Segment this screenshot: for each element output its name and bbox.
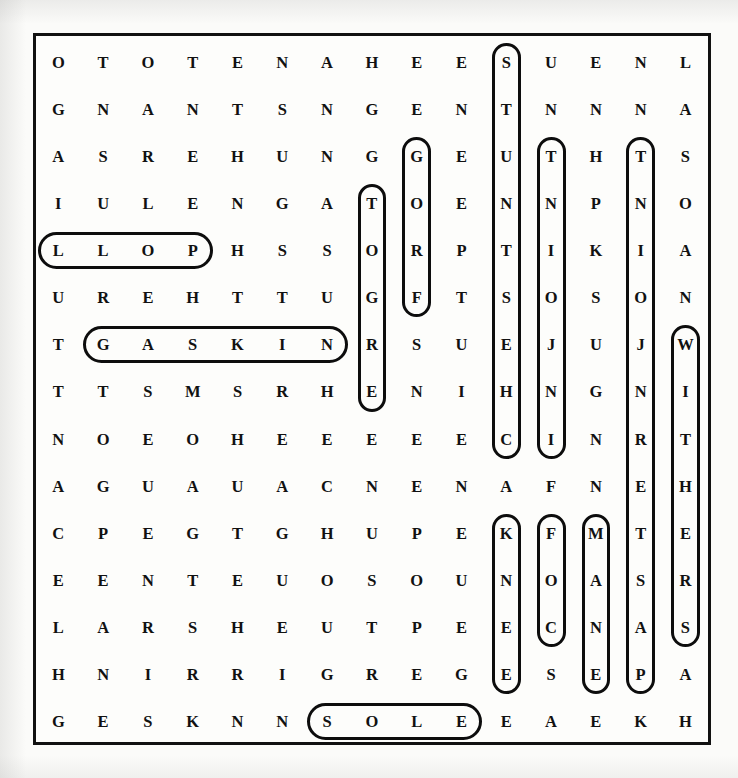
grid-letter[interactable]: N xyxy=(618,39,663,86)
grid-letter[interactable]: L xyxy=(663,39,708,86)
grid-letter[interactable]: H xyxy=(215,416,260,463)
grid-letter[interactable]: E xyxy=(439,604,484,651)
grid-letter[interactable]: N xyxy=(260,39,305,86)
grid-letter[interactable]: U xyxy=(439,321,484,368)
grid-letter[interactable]: W xyxy=(663,321,708,368)
grid-letter[interactable]: S xyxy=(350,557,395,604)
grid-letter[interactable]: C xyxy=(484,416,529,463)
grid-letter[interactable]: U xyxy=(215,463,260,510)
grid-letter[interactable]: E xyxy=(394,463,439,510)
grid-letter[interactable]: N xyxy=(81,86,126,133)
grid-letter[interactable]: A xyxy=(170,463,215,510)
grid-letter[interactable]: G xyxy=(394,133,439,180)
grid-letter[interactable]: O xyxy=(663,180,708,227)
grid-letter[interactable]: A xyxy=(126,321,171,368)
grid-letter[interactable]: T xyxy=(529,133,574,180)
grid-letter[interactable]: N xyxy=(394,368,439,415)
grid-letter[interactable]: U xyxy=(305,604,350,651)
grid-letter[interactable]: U xyxy=(484,133,529,180)
grid-letter[interactable]: E xyxy=(215,39,260,86)
grid-letter[interactable]: E xyxy=(439,698,484,745)
grid-letter[interactable]: G xyxy=(260,180,305,227)
grid-letter[interactable]: E xyxy=(36,557,81,604)
grid-letter[interactable]: E xyxy=(81,557,126,604)
grid-letter[interactable]: A xyxy=(574,557,619,604)
grid-letter[interactable]: L xyxy=(394,698,439,745)
grid-letter[interactable]: S xyxy=(394,321,439,368)
grid-letter[interactable]: P xyxy=(394,604,439,651)
grid-letter[interactable]: O xyxy=(618,274,663,321)
grid-letter[interactable]: E xyxy=(305,416,350,463)
grid-letter[interactable]: E xyxy=(439,180,484,227)
grid-letter[interactable]: S xyxy=(170,604,215,651)
grid-letter[interactable]: T xyxy=(350,180,395,227)
grid-letter[interactable]: T xyxy=(618,510,663,557)
grid-letter[interactable]: E xyxy=(81,698,126,745)
grid-letter[interactable]: N xyxy=(574,463,619,510)
grid-letter[interactable]: L xyxy=(36,604,81,651)
grid-letter[interactable]: T xyxy=(215,274,260,321)
grid-letter[interactable]: E xyxy=(484,604,529,651)
grid-letter[interactable]: O xyxy=(81,416,126,463)
grid-letter[interactable]: N xyxy=(618,180,663,227)
grid-letter[interactable]: T xyxy=(36,321,81,368)
grid-letter[interactable]: E xyxy=(126,274,171,321)
grid-letter[interactable]: K xyxy=(618,698,663,745)
grid-letter[interactable]: E xyxy=(350,416,395,463)
grid-letter[interactable]: R xyxy=(126,604,171,651)
grid-letter[interactable]: A xyxy=(618,604,663,651)
grid-letter[interactable]: S xyxy=(574,274,619,321)
grid-letter[interactable]: N xyxy=(529,86,574,133)
grid-letter[interactable]: A xyxy=(305,39,350,86)
grid-letter[interactable]: N xyxy=(439,86,484,133)
grid-letter[interactable]: P xyxy=(81,510,126,557)
grid-letter[interactable]: E xyxy=(126,510,171,557)
grid-letter[interactable]: A xyxy=(36,133,81,180)
grid-letter[interactable]: N xyxy=(126,557,171,604)
grid-letter[interactable]: H xyxy=(663,463,708,510)
grid-letter[interactable]: A xyxy=(260,463,305,510)
grid-letter[interactable]: G xyxy=(260,510,305,557)
grid-letter[interactable]: S xyxy=(170,321,215,368)
grid-letter[interactable]: N xyxy=(36,416,81,463)
grid-letter[interactable]: R xyxy=(663,557,708,604)
grid-letter[interactable]: E xyxy=(170,180,215,227)
grid-letter[interactable]: T xyxy=(81,39,126,86)
grid-letter[interactable]: I xyxy=(663,368,708,415)
grid-letter[interactable]: H xyxy=(215,133,260,180)
grid-letter[interactable]: I xyxy=(529,227,574,274)
grid-letter[interactable]: N xyxy=(170,86,215,133)
grid-letter[interactable]: N xyxy=(215,698,260,745)
grid-letter[interactable]: S xyxy=(260,86,305,133)
grid-letter[interactable]: R xyxy=(350,321,395,368)
grid-letter[interactable]: G xyxy=(350,86,395,133)
grid-letter[interactable]: U xyxy=(305,274,350,321)
grid-letter[interactable]: G xyxy=(350,133,395,180)
grid-letter[interactable]: O xyxy=(394,557,439,604)
grid-letter[interactable]: S xyxy=(260,227,305,274)
grid-letter[interactable]: R xyxy=(170,651,215,698)
grid-letter[interactable]: U xyxy=(529,39,574,86)
grid-letter[interactable]: R xyxy=(81,274,126,321)
grid-letter[interactable]: K xyxy=(215,321,260,368)
grid-letter[interactable]: N xyxy=(484,180,529,227)
grid-letter[interactable]: S xyxy=(529,651,574,698)
grid-letter[interactable]: O xyxy=(350,227,395,274)
grid-letter[interactable]: N xyxy=(350,463,395,510)
grid-letter[interactable]: H xyxy=(484,368,529,415)
grid-letter[interactable]: F xyxy=(529,510,574,557)
grid-letter[interactable]: E xyxy=(439,510,484,557)
grid-letter[interactable]: E xyxy=(484,321,529,368)
grid-letter[interactable]: U xyxy=(36,274,81,321)
grid-letter[interactable]: S xyxy=(81,133,126,180)
grid-letter[interactable]: K xyxy=(170,698,215,745)
grid-letter[interactable]: L xyxy=(36,227,81,274)
grid-letter[interactable]: U xyxy=(350,510,395,557)
grid-letter[interactable]: N xyxy=(484,557,529,604)
grid-letter[interactable]: S xyxy=(484,274,529,321)
grid-letter[interactable]: N xyxy=(574,416,619,463)
grid-letter[interactable]: N xyxy=(81,651,126,698)
grid-letter[interactable]: I xyxy=(36,180,81,227)
grid-letter[interactable]: E xyxy=(484,651,529,698)
grid-letter[interactable]: R xyxy=(394,227,439,274)
